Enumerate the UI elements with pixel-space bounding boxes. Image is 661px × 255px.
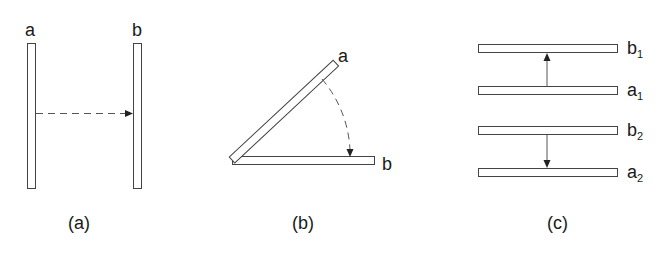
panel-b: a b (b) — [229, 46, 392, 233]
panel-a: a b (a) — [25, 20, 142, 233]
plate-a1 — [479, 87, 618, 95]
label-a1: a1 — [627, 80, 643, 102]
arrowhead-icon — [347, 149, 354, 157]
arrowhead-icon — [125, 110, 133, 117]
plate-a2 — [479, 169, 618, 177]
plate-b-vertical — [134, 44, 142, 189]
plate-a-rotated — [229, 60, 338, 163]
arrowhead-up-icon — [544, 53, 551, 61]
label-a: a — [25, 20, 36, 40]
diagram-canvas: a b (a) a b (b) b1 a1 b2 a2 (c) — [0, 0, 661, 255]
caption-c: (c) — [547, 213, 568, 233]
caption-b: (b) — [292, 213, 314, 233]
rotation-arc-arrow — [322, 79, 350, 150]
plate-b2 — [479, 127, 618, 135]
label-b: b — [132, 20, 142, 40]
plate-b-horizontal — [233, 157, 375, 165]
plate-a-vertical — [28, 44, 36, 189]
label-b1: b1 — [627, 38, 643, 60]
label-b: b — [382, 154, 392, 174]
label-b2: b2 — [627, 120, 643, 142]
caption-a: (a) — [68, 213, 90, 233]
panel-c: b1 a1 b2 a2 (c) — [479, 38, 644, 233]
label-a: a — [338, 46, 349, 66]
plate-b1 — [479, 45, 618, 53]
label-a2: a2 — [627, 162, 643, 184]
arrowhead-down-icon — [544, 160, 551, 168]
